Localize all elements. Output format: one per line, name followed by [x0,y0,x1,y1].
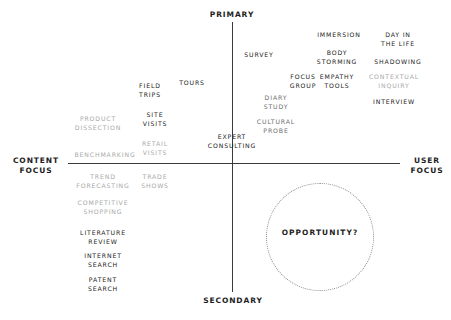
method-label: SURVEY [244,51,273,60]
method-label: TOURS [179,79,205,88]
method-label: LITERATURE REVIEW [80,229,126,246]
method-label: EXPERT CONSULTING [208,133,256,150]
method-label: BENCHMARKING [74,151,135,160]
axis-label-primary: PRIMARY [182,10,282,20]
method-label: TRADE SHOWS [141,173,169,190]
method-label: DIARY STUDY [264,94,289,111]
opportunity-circle [266,183,374,291]
method-label: DAY IN THE LIFE [381,31,415,48]
method-label: INTERNET SEARCH [84,252,122,269]
method-label: SHADOWING [374,58,421,67]
method-label: FIELD TRIPS [139,82,161,99]
method-label: FOCUS GROUP [290,73,316,90]
method-label: COMPETITIVE SHOPPING [78,199,129,216]
method-label: CONTEXTUAL INQUIRY [369,73,419,90]
vertical-axis-line [232,22,233,292]
method-label: EMPATHY TOOLS [320,73,355,90]
method-label: RETAIL VISITS [142,140,168,157]
method-label: SITE VISITS [143,111,168,128]
axis-label-content-focus: CONTENT FOCUS [8,156,64,176]
method-label: IMMERSION [317,31,361,40]
horizontal-axis-line [68,163,400,164]
research-methods-matrix: PRIMARY SECONDARY CONTENT FOCUS USER FOC… [0,0,451,320]
opportunity-label: OPPORTUNITY? [266,228,374,237]
method-label: INTERVIEW [373,98,415,107]
method-label: PATENT SEARCH [88,276,118,293]
method-label: TREND FORECASTING [76,173,130,190]
axis-label-secondary: SECONDARY [178,296,288,306]
axis-label-user-focus: USER FOCUS [405,156,449,176]
method-label: PRODUCT DISSECTION [75,115,121,132]
method-label: CULTURAL PROBE [257,118,295,135]
method-label: BODY STORMING [317,49,357,66]
